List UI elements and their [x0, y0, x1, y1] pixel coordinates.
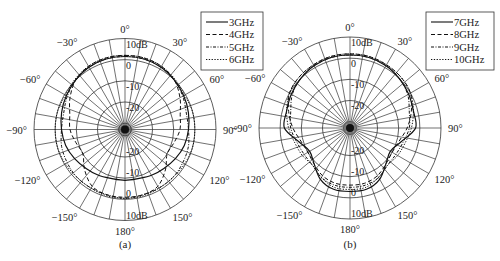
ring-label-bottom: -20 — [126, 146, 139, 157]
ring-label-top: -20 — [351, 100, 364, 111]
angle-tick-label: −120° — [240, 174, 266, 185]
ring-label-top: 10dB — [351, 37, 373, 48]
subfigure-caption: (a) — [119, 238, 132, 251]
ring-label-top: -10 — [126, 81, 139, 92]
angle-tick-label: 150° — [173, 212, 193, 223]
angle-tick-label: 120° — [434, 174, 454, 185]
angle-tick-label: 150° — [398, 210, 418, 221]
angle-tick-label: 30° — [398, 36, 413, 47]
polar-plot-b: 10dB10dB00-10-10-20-200°30°60°90°120°150… — [231, 12, 494, 251]
polar-plot-a: 10dB10dB00-10-10-20-200°30°60°90°120°150… — [6, 12, 263, 251]
ring-label-top: 10dB — [126, 39, 148, 50]
antenna-radiation-patterns: 10dB10dB00-10-10-20-200°30°60°90°120°150… — [0, 0, 500, 261]
angle-tick-label: −90° — [6, 125, 27, 136]
angle-tick-label: −150° — [52, 212, 78, 223]
center-hub — [346, 124, 354, 132]
angle-tick-label: −150° — [277, 210, 303, 221]
legend-entry-label: 5GHz — [229, 42, 254, 53]
ring-label-top: -20 — [126, 102, 139, 113]
legend: 3GHz4GHz5GHz6GHz — [201, 12, 263, 70]
legend-entry-label: 8GHz — [454, 29, 479, 40]
angle-tick-label: −30° — [282, 36, 303, 47]
legend-entry-label: 6GHz — [229, 54, 254, 65]
ring-label-top: -10 — [351, 79, 364, 90]
angle-tick-label: −120° — [15, 175, 41, 186]
ring-label-bottom: -10 — [126, 167, 139, 178]
ring-label-bottom: -20 — [351, 145, 364, 156]
legend-entry-label: 9GHz — [454, 42, 479, 53]
angle-tick-label: 90° — [448, 123, 463, 134]
angle-tick-label: 60° — [209, 74, 224, 85]
ring-label-top: 0 — [126, 60, 131, 71]
subfigure-caption: (b) — [344, 238, 357, 251]
ring-label-bottom: 10dB — [351, 208, 373, 219]
angle-tick-label: −60° — [20, 74, 41, 85]
angle-tick-label: −30° — [57, 37, 78, 48]
legend: 7GHz8GHz9GHz10GHz — [426, 12, 494, 70]
ring-label-bottom: 10dB — [126, 210, 148, 221]
angle-tick-label: 30° — [173, 37, 188, 48]
ring-label-top: 0 — [351, 58, 356, 69]
angle-tick-label: 180° — [340, 224, 360, 235]
legend-entry-label: 10GHz — [454, 54, 485, 65]
ring-label-bottom: -10 — [351, 166, 364, 177]
angle-tick-label: 120° — [209, 175, 229, 186]
angle-tick-label: −90° — [231, 123, 252, 134]
angle-tick-label: 60° — [434, 73, 449, 84]
angle-tick-label: 0° — [345, 22, 354, 33]
legend-entry-label: 3GHz — [229, 17, 254, 28]
legend-entry-label: 7GHz — [454, 17, 479, 28]
polar-chart-figure: 10dB10dB00-10-10-20-200°30°60°90°120°150… — [0, 0, 500, 261]
legend-entry-label: 4GHz — [229, 29, 254, 40]
ring-label-bottom: 0 — [351, 187, 356, 198]
angle-tick-label: 0° — [120, 24, 129, 35]
angle-tick-label: 180° — [115, 226, 135, 237]
center-hub — [121, 126, 129, 134]
angle-tick-label: −60° — [245, 73, 266, 84]
